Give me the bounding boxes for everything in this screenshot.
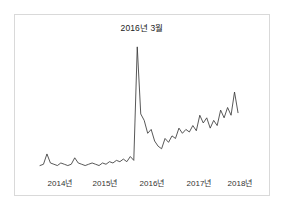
- xtick-label-0: 2014년: [48, 177, 73, 188]
- spike-annotation-label: 2016년 3월: [0, 21, 284, 33]
- xtick-label-2: 2016년: [140, 177, 165, 188]
- xtick-label-4: 2018년: [228, 177, 253, 188]
- chart-figure: 2016년 3월 2014년 2015년 2016년 2017년 2018년: [0, 0, 284, 214]
- xtick-label-3: 2017년: [187, 177, 212, 188]
- chart-frame: [14, 14, 270, 196]
- xtick-label-1: 2015년: [93, 177, 118, 188]
